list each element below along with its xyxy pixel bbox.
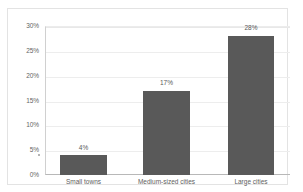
bar-slot-medium-sized-cities: 17% — [143, 26, 190, 175]
bar-small-towns[interactable] — [60, 155, 107, 175]
bar-value-medium-sized-cities: 17% — [143, 80, 190, 87]
y-axis-tick-labels: 30% 25% 20% 15% 10% 5% 0% — [8, 26, 42, 175]
y-tick-label-10: 10% — [26, 122, 39, 129]
y-tick-label-30: 30% — [26, 23, 39, 30]
bars-layer: 4% 17% 28% — [45, 26, 290, 175]
bar-slot-large-cities: 28% — [228, 26, 274, 175]
bar-medium-sized-cities[interactable] — [143, 91, 190, 175]
bar-value-large-cities: 28% — [228, 25, 274, 32]
x-label-large-cities: Large cities — [215, 179, 287, 186]
y-tick-label-20: 20% — [26, 72, 39, 79]
axis-origin-marker — [38, 154, 40, 156]
x-label-medium-sized-cities: Medium-sized cities — [125, 179, 208, 186]
y-tick-label-5: 5% — [30, 147, 39, 154]
y-tick-label-15: 15% — [26, 97, 39, 104]
bar-chart: 30% 25% 20% 15% 10% 5% 0% 4% — [0, 0, 303, 192]
y-tick-label-25: 25% — [26, 48, 39, 55]
x-label-small-towns: Small towns — [48, 179, 119, 186]
x-axis-category-labels: Small towns Medium-sized cities Large ci… — [45, 179, 290, 192]
bar-value-small-towns: 4% — [60, 145, 107, 152]
chart-frame: 30% 25% 20% 15% 10% 5% 0% 4% — [7, 8, 288, 185]
bar-slot-small-towns: 4% — [60, 26, 107, 175]
y-tick-label-0: 0% — [30, 172, 39, 179]
bar-large-cities[interactable] — [228, 36, 274, 175]
